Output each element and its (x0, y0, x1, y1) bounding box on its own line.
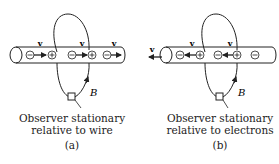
field-loop-front (57, 63, 89, 97)
panel-a: v v v B (10, 14, 125, 108)
panel-label-b: (b) (162, 139, 278, 151)
caption-b: Observer stationary relative to electron… (162, 112, 278, 151)
field-label-b: B (89, 87, 97, 98)
velocity-label: v (189, 38, 195, 48)
field-label-b: B (237, 87, 245, 98)
caption-a-line1: Observer stationary (14, 112, 130, 124)
caption-a-line2: relative to wire (14, 124, 130, 136)
panel-b: v v v B (149, 14, 276, 108)
velocity-label: v (111, 38, 117, 48)
field-loop-front (205, 63, 237, 97)
caption-b-line1: Observer stationary (162, 112, 278, 124)
velocity-label: v (79, 38, 85, 48)
caption-a: Observer stationary relative to wire (a) (14, 112, 130, 151)
caption-b-line2: relative to electrons (162, 124, 278, 136)
velocity-label: v (227, 38, 233, 48)
observer-icon (68, 93, 75, 100)
velocity-label: v (149, 44, 155, 54)
panel-label-a: (a) (14, 139, 130, 151)
observer-icon (216, 93, 223, 100)
velocity-label: v (37, 38, 43, 48)
